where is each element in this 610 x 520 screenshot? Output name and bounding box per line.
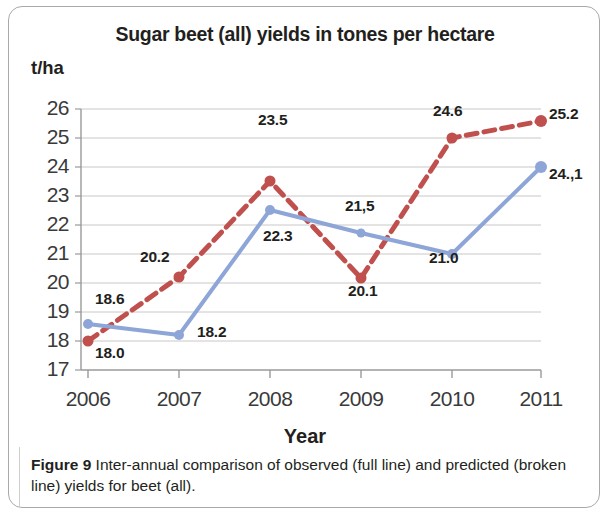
data-label: 18.0 xyxy=(95,344,124,362)
y-tick-marks xyxy=(75,109,81,370)
caption-divider xyxy=(19,447,20,507)
plot-area xyxy=(9,7,601,437)
data-label: 18.2 xyxy=(197,323,226,341)
x-tick-label: 2007 xyxy=(134,387,224,411)
x-tick-label: 2008 xyxy=(225,387,315,411)
data-label: 21,5 xyxy=(345,197,374,215)
x-tick-label: 2009 xyxy=(316,387,406,411)
x-tick-label: 2011 xyxy=(496,387,586,411)
data-label: 21.0 xyxy=(429,249,458,267)
figure-caption-text: Inter-annual comparison of observed (ful… xyxy=(31,456,566,494)
data-label: 24.,1 xyxy=(549,165,582,183)
data-label: 23.5 xyxy=(258,111,287,129)
data-label: 25.2 xyxy=(549,105,578,123)
x-tick-label: 2006 xyxy=(43,387,133,411)
x-tick-label: 2010 xyxy=(407,387,497,411)
data-label: 22.3 xyxy=(263,227,292,245)
chart-region: Sugar beet (all) yields in tones per hec… xyxy=(9,7,601,437)
figure-card: Sugar beet (all) yields in tones per hec… xyxy=(8,6,600,508)
data-label: 20.2 xyxy=(140,248,169,266)
figure-caption-label: Figure 9 xyxy=(31,456,91,473)
figure-caption: Figure 9 Inter-annual comparison of obse… xyxy=(31,455,579,497)
x-tick-marks xyxy=(88,370,541,378)
data-label: 20.1 xyxy=(348,282,377,300)
x-axis-title: Year xyxy=(9,425,601,448)
data-label: 18.6 xyxy=(95,290,124,308)
data-label: 24.6 xyxy=(433,102,462,120)
